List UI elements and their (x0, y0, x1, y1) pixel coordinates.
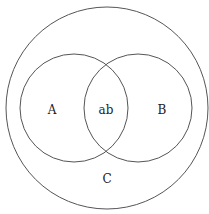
venn-diagram: A ab B C (0, 0, 209, 214)
label-c: C (102, 172, 111, 186)
label-b: B (158, 103, 167, 117)
label-intersection: ab (99, 103, 114, 117)
label-a: A (47, 103, 57, 117)
